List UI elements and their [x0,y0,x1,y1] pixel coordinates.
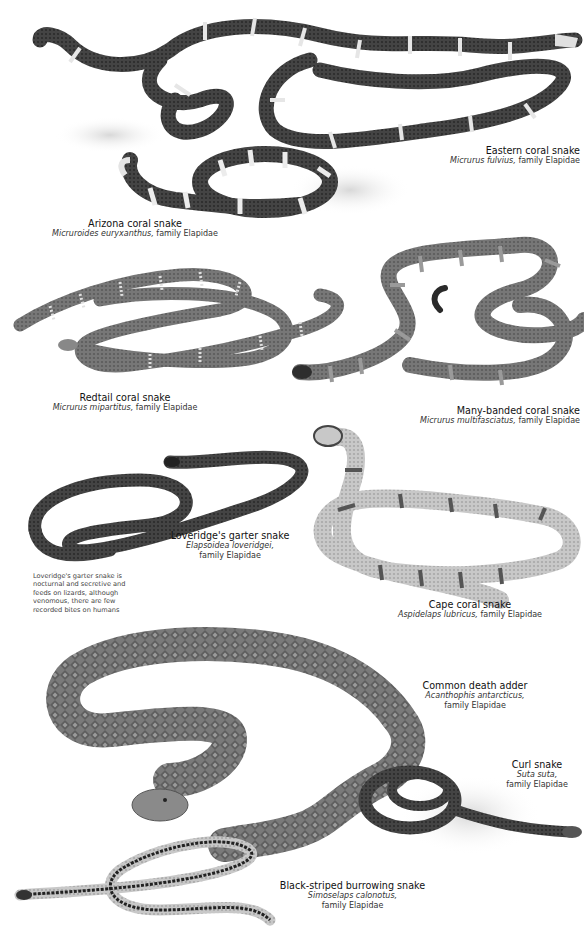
scientific-name: Acanthophis antarcticus, [405,691,545,700]
caption-redtail-coral-snake: Redtail coral snake Micrurus mipartitus,… [10,392,240,413]
scientific-name: Micrurus mipartitus, family Elapidae [10,403,240,412]
caption-cape-coral-snake: Cape coral snake Aspidelaps lubricus, fa… [370,599,570,620]
common-name: Arizona coral snake [20,218,250,229]
common-name: Redtail coral snake [10,392,240,403]
caption-common-death-adder: Common death adder Acanthophis antarctic… [405,680,545,710]
scientific-name: Elapsoidea loveridgei, [160,541,300,550]
scientific-name: Aspidelaps lubricus, family Elapidae [370,610,570,619]
common-name: Eastern coral snake [410,145,580,156]
common-name: Many-banded coral snake [380,405,580,416]
caption-loveridges-garter-snake: Loveridge's garter snake Elapsoidea love… [160,530,300,560]
cape-coral-snake-illustration [314,426,572,600]
illustration-plate [0,0,584,937]
family-label: family Elapidae [494,780,580,789]
scientific-name: Micrurus fulvius, family Elapidae [410,156,580,165]
redtail-coral-snake-illustration [20,272,337,368]
family-label: family Elapidae [270,901,435,910]
scientific-name: Suta suta, [494,770,580,779]
common-death-adder-illustration [63,644,408,845]
common-name: Curl snake [494,759,580,770]
caption-arizona-coral-snake: Arizona coral snake Micruroides euryxant… [20,218,250,239]
caption-black-striped-burrowing-snake: Black-striped burrowing snake Simoselaps… [270,880,435,910]
common-name: Black-striped burrowing snake [270,880,435,891]
family-label: family Elapidae [160,551,300,560]
scientific-name: Simoselaps calonotus, [270,891,435,900]
species-note: Loveridge's garter snake is nocturnal an… [33,572,133,614]
caption-eastern-coral-snake: Eastern coral snake Micrurus fulvius, fa… [410,145,580,166]
caption-curl-snake: Curl snake Suta suta, family Elapidae [494,759,580,789]
common-name: Cape coral snake [370,599,570,610]
common-name: Common death adder [405,680,545,691]
common-name: Loveridge's garter snake [160,530,300,541]
family-label: family Elapidae [405,701,545,710]
scientific-name: Micruroides euryxanthus, family Elapidae [20,229,250,238]
caption-many-banded-coral-snake: Many-banded coral snake Micrurus multifa… [380,405,580,426]
scientific-name: Micrurus multifasciatus, family Elapidae [380,416,580,425]
